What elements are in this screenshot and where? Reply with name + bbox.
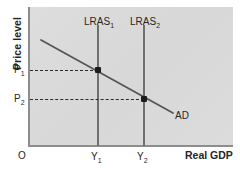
equilibrium-point-2 — [141, 96, 147, 102]
lras2-label: LRAS2 — [130, 16, 160, 31]
economics-ad-lras-diagram: Price level LRAS1 LRAS2 AD P1 P2 O Y1 Y2… — [0, 0, 240, 179]
y2-tick-label: Y2 — [137, 151, 148, 166]
lras2-subscript: 2 — [156, 22, 160, 29]
p2-guide-line — [30, 99, 144, 100]
lras1-subscript: 1 — [110, 22, 114, 29]
y1-tick-label: Y1 — [91, 151, 102, 166]
x-axis-label: Real GDP — [185, 150, 233, 161]
y1-subscript: 1 — [98, 157, 102, 164]
p2-tick-label: P2 — [14, 93, 25, 108]
equilibrium-point-1 — [95, 67, 101, 73]
lras1-label: LRAS1 — [84, 16, 114, 31]
origin-label: O — [18, 150, 26, 161]
x-axis-line — [28, 145, 233, 147]
y2-subscript: 2 — [144, 157, 148, 164]
lras2-vertical-line — [143, 25, 145, 146]
p1-guide-line — [30, 70, 98, 71]
y-axis-line — [28, 7, 30, 147]
p1-tick-label: P1 — [14, 64, 25, 79]
p2-subscript: 2 — [21, 99, 25, 106]
ad-curve-label: AD — [175, 110, 189, 121]
lras1-vertical-line — [97, 25, 99, 146]
p1-subscript: 1 — [21, 70, 25, 77]
